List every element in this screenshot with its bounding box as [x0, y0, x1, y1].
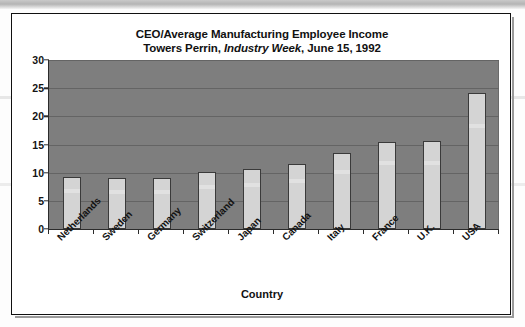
x-axis-tick-mark — [318, 229, 319, 234]
y-axis-tick-label: 15 — [14, 139, 44, 151]
gridline — [49, 88, 499, 89]
frame-shadow-right — [512, 17, 514, 317]
bar-usa — [468, 93, 486, 229]
y-axis-tick-label: 25 — [14, 82, 44, 94]
bar-sheen — [64, 189, 80, 193]
bar-sheen — [334, 170, 350, 174]
y-axis-tick-label: 30 — [14, 54, 44, 66]
bar-sheen — [469, 124, 485, 128]
x-axis-tick-mark — [498, 229, 499, 234]
x-axis-tick-mark — [228, 229, 229, 234]
x-axis-tick-mark — [93, 229, 94, 234]
bar-italy — [333, 153, 351, 229]
plot-wrapper: 051015202530 Country NetherlandsSwedenGe… — [12, 14, 512, 316]
x-axis-tick-mark — [273, 229, 274, 234]
x-axis-title: Country — [12, 288, 512, 300]
x-axis-tick-mark — [138, 229, 139, 234]
scanned-page: CEO/Average Manufacturing Employee Incom… — [0, 0, 525, 327]
plot-area — [48, 60, 499, 230]
bar-sheen — [199, 185, 215, 189]
y-axis-tick-label: 5 — [14, 195, 44, 207]
bar-sheen — [154, 190, 170, 194]
scan-artifact-top-band — [0, 0, 525, 9]
x-axis-tick-mark — [408, 229, 409, 234]
bar-sheen — [379, 161, 395, 165]
frame-shadow-bottom — [15, 316, 514, 318]
gridline — [49, 116, 499, 117]
chart-frame: CEO/Average Manufacturing Employee Incom… — [11, 13, 511, 315]
bar-sheen — [424, 161, 440, 165]
x-axis-tick-mark — [453, 229, 454, 234]
y-axis-tick-label: 10 — [14, 167, 44, 179]
gridline — [49, 60, 499, 61]
y-axis: 051015202530 — [12, 60, 44, 229]
x-axis-tick-mark-origin — [48, 229, 49, 234]
y-axis-tick-label: 0 — [14, 223, 44, 235]
bar-sheen — [289, 179, 305, 183]
bar-u-k — [423, 141, 441, 229]
y-axis-tick-label: 20 — [14, 110, 44, 122]
bar-sheen — [109, 190, 125, 194]
x-axis-tick-mark — [183, 229, 184, 234]
x-axis-tick-mark — [363, 229, 364, 234]
bar-sheen — [244, 183, 260, 187]
